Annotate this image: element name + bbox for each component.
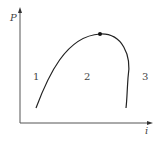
y-axis-label: P bbox=[10, 13, 17, 23]
region-3-label: 3 bbox=[142, 72, 148, 82]
y-axis-arrow-icon bbox=[18, 7, 22, 13]
region-2-label: 2 bbox=[84, 72, 90, 82]
diagram-canvas bbox=[0, 0, 159, 141]
critical-point-marker bbox=[98, 32, 102, 36]
p-i-diagram: P i 1 2 3 bbox=[0, 0, 159, 141]
saturation-curve bbox=[36, 34, 129, 108]
region-1-label: 1 bbox=[33, 72, 39, 82]
x-axis-label: i bbox=[145, 126, 148, 136]
